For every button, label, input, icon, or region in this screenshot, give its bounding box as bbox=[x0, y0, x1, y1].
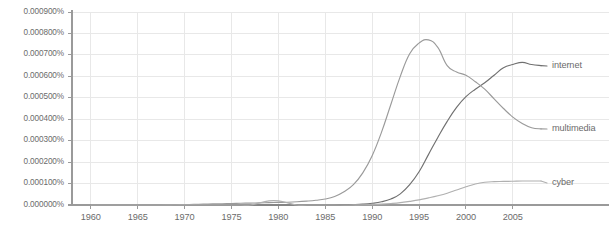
series-line-multimedia bbox=[91, 40, 541, 205]
series-label-multimedia[interactable]: multimedia bbox=[552, 124, 595, 133]
x-axis-tick-label: 1970 bbox=[161, 213, 209, 222]
series-leader-lines bbox=[541, 66, 547, 183]
x-axis-tick-label: 1975 bbox=[207, 213, 255, 222]
y-axis-tick-label: 0.000500% bbox=[0, 93, 64, 101]
series-lines bbox=[91, 40, 541, 206]
y-axis-tick-label: 0.000700% bbox=[0, 50, 64, 58]
y-axis-tick-label: 0.000100% bbox=[0, 179, 64, 187]
series-label-cyber[interactable]: cyber bbox=[552, 178, 574, 187]
axis-lines bbox=[68, 10, 609, 209]
x-axis-tick-label: 1960 bbox=[67, 213, 115, 222]
x-axis-tick-label: 1965 bbox=[114, 213, 162, 222]
y-axis-tick-label: 0.000600% bbox=[0, 72, 64, 80]
y-axis-tick-label: 0.000300% bbox=[0, 136, 64, 144]
x-axis-tick-label: 1995 bbox=[395, 213, 443, 222]
x-axis-tick-label: 2005 bbox=[489, 213, 537, 222]
x-axis-tick-label: 1990 bbox=[348, 213, 396, 222]
y-axis-tick-label: 0.000900% bbox=[0, 8, 64, 16]
x-axis-tick-label: 1980 bbox=[254, 213, 302, 222]
leader-line-cyber bbox=[541, 181, 547, 183]
series-label-internet[interactable]: internet bbox=[552, 61, 582, 70]
gridlines bbox=[72, 12, 609, 205]
y-axis-tick-label: 0.000000% bbox=[0, 201, 64, 209]
x-axis-tick-label: 2000 bbox=[442, 213, 490, 222]
ngram-chart: 0.000900%0.000800%0.000700%0.000600%0.00… bbox=[0, 0, 609, 238]
y-axis-tick-label: 0.000400% bbox=[0, 115, 64, 123]
series-line-cyber bbox=[91, 181, 541, 205]
chart-canvas bbox=[0, 0, 609, 238]
y-axis-tick-label: 0.000200% bbox=[0, 158, 64, 166]
y-axis-tick-label: 0.000800% bbox=[0, 29, 64, 37]
x-axis-tick-label: 1985 bbox=[301, 213, 349, 222]
